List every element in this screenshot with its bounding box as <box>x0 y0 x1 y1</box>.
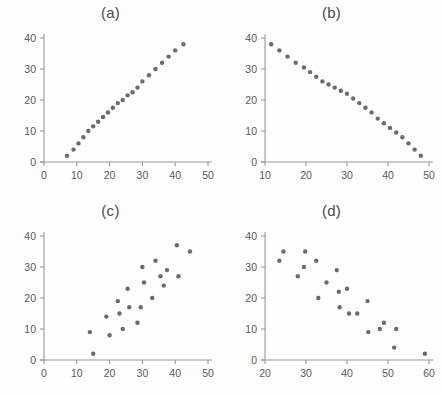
svg-text:40: 40 <box>24 32 36 44</box>
svg-text:0: 0 <box>41 169 47 181</box>
svg-text:60: 60 <box>423 367 435 379</box>
svg-text:0: 0 <box>251 354 257 366</box>
panel-c-plot: 01020304001020304050 <box>0 198 221 395</box>
svg-text:40: 40 <box>341 367 353 379</box>
svg-text:0: 0 <box>30 156 36 168</box>
svg-text:30: 30 <box>24 261 36 273</box>
svg-text:30: 30 <box>341 169 353 181</box>
svg-text:10: 10 <box>24 125 36 137</box>
svg-text:40: 40 <box>245 230 257 242</box>
panel-b-plot: 0102030401020304050 <box>221 0 442 197</box>
svg-text:30: 30 <box>245 261 257 273</box>
svg-text:50: 50 <box>202 367 214 379</box>
svg-text:50: 50 <box>382 367 394 379</box>
svg-text:40: 40 <box>24 230 36 242</box>
panel-d-plot: 0102030402030405060 <box>221 198 442 395</box>
svg-text:30: 30 <box>245 63 257 75</box>
panel-d: (d) 0102030402030405060 <box>221 198 442 395</box>
scatter-plot-figure: (a) 01020304001020304050 (b) 01020304010… <box>0 0 442 395</box>
panel-a: (a) 01020304001020304050 <box>0 0 221 197</box>
svg-text:20: 20 <box>24 94 36 106</box>
svg-text:20: 20 <box>104 367 116 379</box>
svg-text:0: 0 <box>251 156 257 168</box>
svg-text:30: 30 <box>24 63 36 75</box>
svg-text:50: 50 <box>423 169 435 181</box>
svg-text:20: 20 <box>300 169 312 181</box>
svg-text:10: 10 <box>259 169 271 181</box>
panel-b: (b) 0102030401020304050 <box>221 0 442 197</box>
svg-text:40: 40 <box>169 169 181 181</box>
svg-text:0: 0 <box>30 354 36 366</box>
svg-text:20: 20 <box>104 169 116 181</box>
svg-text:40: 40 <box>245 32 257 44</box>
svg-text:0: 0 <box>41 367 47 379</box>
svg-text:10: 10 <box>71 367 83 379</box>
svg-text:30: 30 <box>137 169 149 181</box>
panel-c: (c) 01020304001020304050 <box>0 198 221 395</box>
svg-text:10: 10 <box>245 125 257 137</box>
svg-text:10: 10 <box>24 323 36 335</box>
svg-text:20: 20 <box>245 292 257 304</box>
svg-text:20: 20 <box>245 94 257 106</box>
svg-text:10: 10 <box>245 323 257 335</box>
svg-text:20: 20 <box>259 367 271 379</box>
svg-text:50: 50 <box>202 169 214 181</box>
svg-text:30: 30 <box>300 367 312 379</box>
svg-text:40: 40 <box>382 169 394 181</box>
svg-text:10: 10 <box>71 169 83 181</box>
svg-text:30: 30 <box>137 367 149 379</box>
svg-text:20: 20 <box>24 292 36 304</box>
panel-a-plot: 01020304001020304050 <box>0 0 221 197</box>
svg-text:40: 40 <box>169 367 181 379</box>
